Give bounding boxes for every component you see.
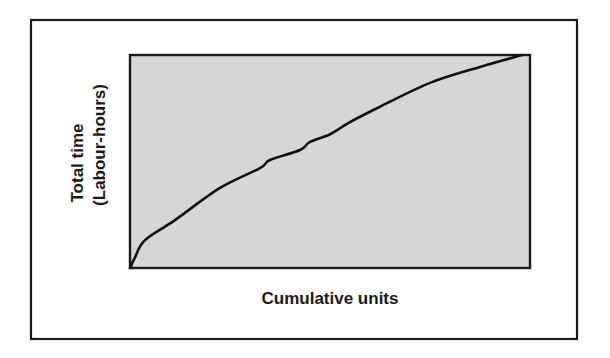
y-axis-label-line-2: (Labour-hours) bbox=[90, 84, 109, 206]
y-axis-label-line-1: Total time bbox=[68, 123, 87, 202]
chart: Total time (Labour-hours) Cumulative uni… bbox=[0, 0, 610, 358]
plot-area bbox=[130, 55, 530, 268]
x-axis-label: Cumulative units bbox=[262, 289, 399, 308]
